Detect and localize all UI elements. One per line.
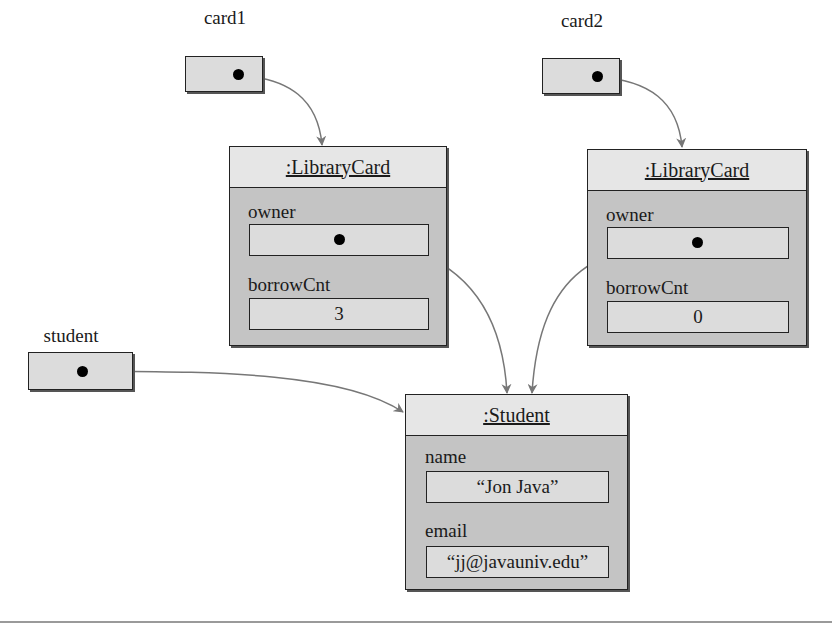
librarycard1-borrowcnt-field[interactable]: 3: [249, 298, 429, 330]
student-label: student: [28, 326, 114, 346]
student-email-label: email: [425, 521, 467, 541]
diagram-canvas: card1 card2 student :LibraryCard owner b…: [0, 0, 832, 623]
librarycard2-object[interactable]: :LibraryCard owner borrowCnt 0: [587, 149, 807, 346]
student-email-field[interactable]: “jj@javauniv.edu”: [426, 546, 609, 578]
card1-reference-box[interactable]: [185, 56, 263, 92]
librarycard2-owner-pointer-dot: [692, 237, 703, 248]
librarycard2-borrowcnt-field[interactable]: 0: [607, 301, 789, 333]
card2-label: card2: [542, 11, 622, 31]
student-object[interactable]: :Student name “Jon Java” email “jj@javau…: [405, 394, 628, 590]
librarycard2-title: :LibraryCard: [588, 150, 806, 191]
librarycard1-object[interactable]: :LibraryCard owner borrowCnt 3: [229, 146, 447, 346]
librarycard1-owner-label: owner: [248, 202, 295, 222]
student-name-field[interactable]: “Jon Java”: [426, 471, 609, 503]
librarycard1-title: :LibraryCard: [230, 147, 446, 188]
student-title: :Student: [406, 395, 627, 436]
student-pointer-dot: [77, 366, 88, 377]
student-name-label: name: [425, 447, 466, 467]
card2-pointer-dot: [592, 71, 603, 82]
librarycard1-borrowcnt-label: borrowCnt: [248, 275, 330, 295]
card1-pointer-dot: [233, 69, 244, 80]
librarycard2-borrowcnt-label: borrowCnt: [606, 278, 688, 298]
card1-label: card1: [185, 8, 265, 28]
librarycard1-owner-pointer-dot: [334, 234, 345, 245]
librarycard2-owner-label: owner: [606, 205, 653, 225]
card2-reference-box[interactable]: [542, 58, 620, 94]
